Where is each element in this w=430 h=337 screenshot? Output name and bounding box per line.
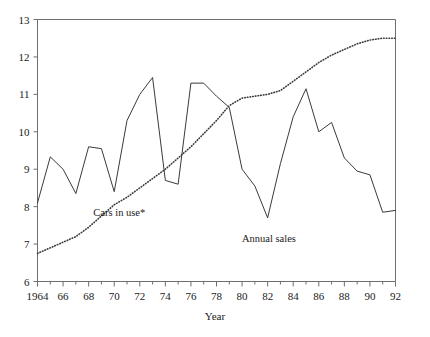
y-axis-tick-label: 7 (24, 238, 30, 250)
x-axis-tick-label: 86 (313, 290, 325, 302)
data-series-group (38, 38, 396, 253)
series-label-annual-sales: Annual sales (242, 233, 296, 244)
y-axis-tick-label: 9 (24, 163, 30, 175)
y-axis-tick-label: 8 (24, 201, 30, 213)
x-axis-tick-label: 74 (160, 290, 172, 302)
x-axis-tick-label: 1964 (27, 290, 50, 302)
x-axis-title: Year (205, 310, 226, 322)
y-axis-tick-label: 13 (19, 14, 31, 26)
chart-container: 678910111213 196466687072747678808284868… (0, 0, 430, 337)
line-chart: 678910111213 196466687072747678808284868… (0, 0, 430, 337)
series-label-cars-in-use: Cars in use* (93, 207, 145, 218)
x-axis-tick-label: 66 (58, 290, 70, 302)
x-axis-tick-label: 76 (185, 290, 197, 302)
y-axis-tick-label: 10 (19, 126, 31, 138)
x-axis-tick-label: 88 (339, 290, 351, 302)
series-line-annual-sales (38, 78, 396, 218)
x-axis-tick-label: 68 (83, 290, 95, 302)
y-axis-tick-label: 11 (19, 88, 30, 100)
x-axis-tick-label: 78 (211, 290, 223, 302)
x-axis-tick-label: 70 (109, 290, 121, 302)
x-axis-tick-label: 82 (262, 290, 273, 302)
series-line-cars-in-use (38, 38, 396, 253)
x-axis-tick-label: 80 (237, 290, 249, 302)
x-axis-tick-label: 84 (288, 290, 300, 302)
x-axis-tick-label: 90 (364, 290, 376, 302)
x-axis-tick-label: 72 (134, 290, 145, 302)
x-axis-tick-label: 92 (390, 290, 401, 302)
y-axis-tick-label: 12 (19, 51, 30, 63)
x-axis: 19646668707274767880828486889092 (27, 282, 402, 302)
y-axis-tick-label: 6 (24, 276, 30, 288)
y-axis: 678910111213 (19, 14, 38, 288)
